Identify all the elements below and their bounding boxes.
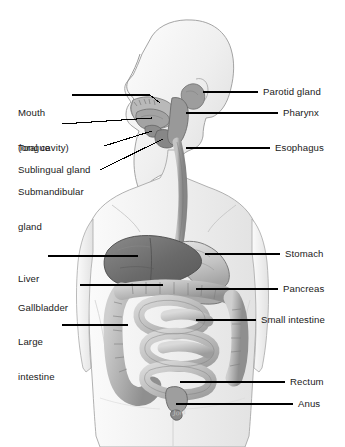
label-large-intestine-line1: Large bbox=[18, 336, 55, 348]
label-anus: Anus bbox=[298, 398, 320, 410]
label-large-intestine: Large intestine bbox=[18, 313, 55, 406]
label-mouth-line1: Mouth bbox=[18, 107, 69, 119]
label-pharynx: Pharynx bbox=[283, 107, 319, 119]
label-submandibular-gland: Submandibular gland bbox=[18, 163, 84, 256]
label-stomach: Stomach bbox=[285, 248, 324, 260]
label-rectum: Rectum bbox=[290, 376, 324, 388]
digestive-system-diagram: Mouth (oral cavity) Tongue Sublingual gl… bbox=[0, 0, 345, 447]
label-pancreas: Pancreas bbox=[283, 283, 324, 295]
label-small-intestine: Small intestine bbox=[261, 314, 325, 326]
label-parotid-gland: Parotid gland bbox=[263, 86, 321, 98]
label-submandibular-gland-line2: gland bbox=[18, 221, 84, 233]
label-large-intestine-line2: intestine bbox=[18, 371, 55, 383]
label-submandibular-gland-line1: Submandibular bbox=[18, 186, 84, 198]
label-esophagus: Esophagus bbox=[275, 142, 324, 154]
artist-signature: Joni bbox=[171, 407, 186, 418]
